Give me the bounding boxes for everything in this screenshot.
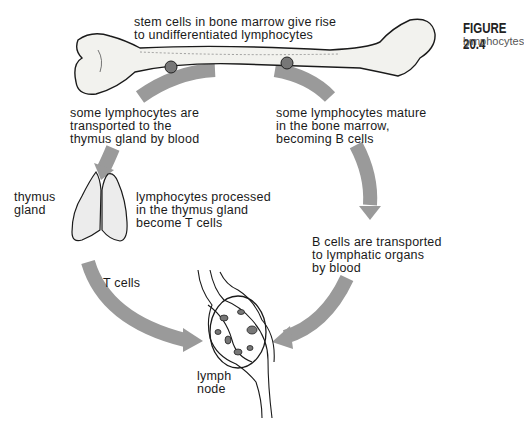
label-thymus-transport: some lymphocytes are transported to the … [70,107,199,146]
arrowhead-t-node [183,328,203,352]
arrow-to-b-cells [356,145,370,205]
label-b-transport: B cells are transported to lymphatic org… [312,236,442,275]
label-stem-cells: stem cells in bone marrow give rise to u… [134,16,336,42]
label-bone-marrow-mature: some lymphocytes mature in the bone marr… [276,107,427,146]
marrow-spot-left [165,61,177,73]
label-t-processing: lymphocytes processed in the thymus glan… [136,191,271,230]
label-thymus-gland: thymus gland [14,191,56,217]
arrowhead-b-cells [359,206,381,220]
arrow-b-cells-to-node [285,278,347,337]
figure-caption: lymphocytes [463,35,524,47]
label-t-cells: T cells [103,277,140,290]
arrow-to-thymus [104,148,113,168]
thymus-gland-illustration [72,172,127,241]
arrow-t-cells-to-node [88,262,185,340]
arrowhead-b-node [272,326,293,349]
marrow-spot-right [281,57,293,69]
arrow-bone-to-left [140,70,215,97]
label-lymph-node: lymph node [197,370,231,396]
arrow-bone-to-right [275,70,330,97]
